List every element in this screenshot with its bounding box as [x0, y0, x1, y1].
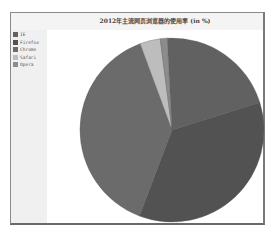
- pie-chart: [0, 0, 274, 236]
